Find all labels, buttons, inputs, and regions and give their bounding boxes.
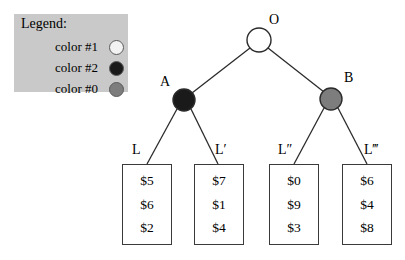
leaf-value: $7: [212, 174, 226, 188]
node-label-b: B: [344, 70, 353, 86]
legend-label-color0: color #0: [55, 81, 98, 97]
leaf-box-l2[interactable]: $0 $9 $3: [269, 164, 319, 245]
leaf-label-l2: L″: [278, 142, 292, 158]
legend-row-color2: color #2: [14, 59, 128, 78]
legend-row-color1: color #1: [14, 38, 128, 57]
leaf-value: $1: [212, 198, 226, 212]
legend-panel: Legend: color #1 color #2 color #0: [14, 14, 128, 92]
tree-node-a[interactable]: [173, 89, 195, 111]
edge-root-to-a: [192, 48, 250, 93]
edge-a-to-leaf-l: [147, 109, 177, 164]
tree-node-root[interactable]: [247, 28, 271, 52]
legend-swatch-white-icon: [109, 40, 124, 55]
leaf-label-l: L: [132, 142, 141, 158]
edge-b-to-leaf-l2: [294, 108, 324, 164]
leaf-box-l[interactable]: $5 $6 $2: [122, 164, 172, 245]
leaf-value: $3: [287, 221, 301, 235]
tree-node-b[interactable]: [320, 88, 342, 110]
edge-root-to-b: [268, 48, 324, 92]
leaf-label-l3: L‴: [364, 142, 378, 158]
edge-a-to-leaf-l1: [191, 109, 218, 164]
diagram-canvas: Legend: color #1 color #2 color #0 O A B…: [0, 0, 405, 260]
leaf-value: $4: [212, 221, 226, 235]
legend-label-color1: color #1: [55, 39, 98, 55]
leaf-value: $2: [140, 221, 154, 235]
edge-b-to-leaf-l3: [338, 108, 367, 164]
legend-title: Legend:: [21, 16, 67, 32]
legend-swatch-gray-icon: [109, 82, 124, 97]
node-label-a: A: [160, 74, 170, 90]
leaf-value: $5: [140, 174, 154, 188]
leaf-box-l3[interactable]: $6 $4 $8: [342, 164, 392, 245]
legend-swatch-black-icon: [109, 61, 124, 76]
leaf-value: $8: [360, 221, 374, 235]
leaf-value: $9: [287, 198, 301, 212]
leaf-value: $4: [360, 198, 374, 212]
legend-label-color2: color #2: [55, 60, 98, 76]
legend-row-color0: color #0: [14, 80, 128, 99]
leaf-box-l1[interactable]: $7 $1 $4: [194, 164, 244, 245]
node-label-root: O: [269, 12, 279, 28]
leaf-value: $0: [287, 174, 301, 188]
leaf-value: $6: [360, 174, 374, 188]
leaf-label-l1: L′: [215, 142, 227, 158]
leaf-value: $6: [140, 198, 154, 212]
